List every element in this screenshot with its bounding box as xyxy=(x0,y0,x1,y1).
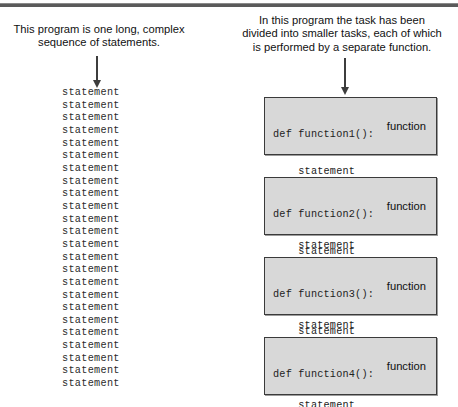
statement-line: statement xyxy=(62,100,182,113)
statement-line: statement xyxy=(62,365,182,378)
left-caption-line-1: This program is one long, complex xyxy=(4,23,194,36)
function-header: def function3(): xyxy=(273,289,374,301)
statement-line: statement xyxy=(62,340,182,353)
right-caption: In this program the task has been divide… xyxy=(228,14,456,54)
function-annotation-label: function xyxy=(387,200,426,212)
statement-line: statement xyxy=(62,327,182,340)
statement-line: statement xyxy=(62,277,182,290)
down-arrow-icon-right xyxy=(337,58,353,95)
statement-line: statement xyxy=(62,188,182,201)
down-arrow-icon-left xyxy=(89,56,105,88)
statement-line: statement xyxy=(62,353,182,366)
statement-line: statement xyxy=(62,87,182,100)
arrow-shaft xyxy=(96,56,98,80)
function-code: def function4(): statement statement sta… xyxy=(273,344,374,407)
function-annotation-label: function xyxy=(387,120,426,132)
statement-line: statement xyxy=(62,112,182,125)
arrow-shaft xyxy=(344,58,346,87)
statement-line: statement xyxy=(62,252,182,265)
statement-line: statement xyxy=(62,176,182,189)
function-box: def function3(): statement statement sta… xyxy=(264,257,437,315)
statement-line: statement xyxy=(62,290,182,303)
right-caption-line-2: divided into smaller tasks, each of whic… xyxy=(228,27,456,40)
function-box: def function4(): statement statement sta… xyxy=(264,337,437,395)
right-caption-line-1: In this program the task has been xyxy=(228,14,456,27)
function-annotation-label: function xyxy=(387,360,426,372)
header-rule xyxy=(0,3,458,7)
statement-line: statement xyxy=(62,315,182,328)
right-caption-line-3: is performed by a separate function. xyxy=(228,41,456,54)
function-header: def function4(): xyxy=(273,369,374,381)
statement-list: statement statement statement statement … xyxy=(62,87,182,391)
function-annotation-label: function xyxy=(387,280,426,292)
function-box: def function1(): statement statement sta… xyxy=(264,97,437,155)
left-caption: This program is one long, complex sequen… xyxy=(4,23,194,50)
function-box: def function2(): statement statement sta… xyxy=(264,177,437,235)
statement-line: statement xyxy=(62,264,182,277)
statement-line: statement xyxy=(62,150,182,163)
statement-line: statement xyxy=(62,302,182,315)
statement-line: statement xyxy=(62,201,182,214)
arrow-head xyxy=(341,87,349,95)
statement-line: statement xyxy=(62,239,182,252)
statement-line: statement xyxy=(62,163,182,176)
function-header: def function1(): xyxy=(273,129,374,141)
statement-line: statement xyxy=(62,214,182,227)
left-caption-line-2: sequence of statements. xyxy=(4,36,194,49)
statement-line: statement xyxy=(62,125,182,138)
statement-line: statement xyxy=(62,138,182,151)
statement-line: statement xyxy=(62,378,182,391)
statement-line: statement xyxy=(62,226,182,239)
function-header: def function2(): xyxy=(273,209,374,221)
